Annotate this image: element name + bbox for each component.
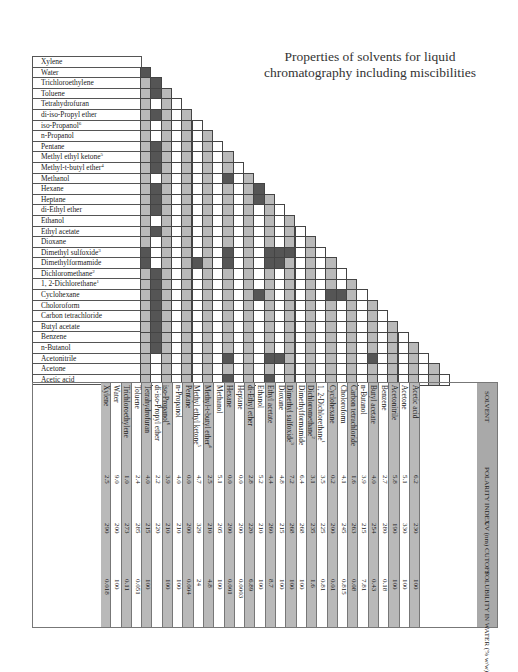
solvent-name: n-Propanol [173, 385, 182, 418]
row-label: n-Butanol [33, 343, 141, 354]
solvent-column: Ethyl acetate4.42608.7 [266, 383, 276, 627]
value-uv: 200 [111, 523, 120, 534]
value-polarity: 3.9 [359, 475, 368, 484]
value-polarity: 4.1 [338, 475, 347, 484]
value-solubility: 6.89 [245, 579, 254, 591]
solvent-column: Heptane0.02000.0003 [235, 383, 245, 627]
value-uv: 205 [214, 523, 223, 534]
value-solubility: 8.7 [266, 579, 275, 588]
title-line-2: chromatography including miscibilities [255, 65, 485, 81]
value-solubility: 0.004 [184, 579, 193, 595]
value-solubility: 100 [276, 579, 285, 590]
value-solubility: 100 [256, 579, 265, 590]
row-label: Dioxane [33, 237, 141, 248]
value-polarity: 2.8 [245, 475, 254, 484]
value-polarity: 2.2 [153, 475, 162, 484]
value-polarity: 4.4 [266, 475, 275, 484]
value-polarity: 5.1 [214, 475, 223, 484]
solvent-name: Toluene [132, 385, 141, 409]
value-uv: 268 [297, 523, 306, 534]
row-label: Trichloroethylene [33, 78, 141, 89]
row-label: Heptane [33, 195, 141, 206]
solvent-column: Toluene2.42850.051 [132, 383, 142, 627]
value-solubility: 0.11 [122, 579, 131, 591]
value-uv: 215 [276, 523, 285, 534]
row-label: iso-Propanol6 [33, 121, 141, 132]
value-polarity: 4.0 [142, 475, 151, 484]
solvent-name: Cyclohexane [328, 385, 337, 424]
value-uv: 254 [369, 523, 378, 534]
solvent-column: Methanol5.1205100 [214, 383, 224, 627]
value-solubility: 0.18 [379, 579, 388, 591]
value-polarity: 2.7 [379, 475, 388, 484]
title-line-1: Properties of solvents for liquid [255, 49, 485, 65]
row-label: Water [33, 68, 141, 79]
row-label: Methanol [33, 174, 141, 185]
row-label: Dimethylformamide [33, 258, 141, 269]
solvent-name: iso-Propanol6 [162, 385, 173, 425]
value-uv: 260 [266, 523, 275, 534]
value-solubility: 1.6 [307, 579, 316, 588]
value-polarity: 2.4 [132, 475, 141, 484]
row-label: Butyl acetate [33, 322, 141, 333]
row-label: Ethanol [33, 216, 141, 227]
solvent-column: Hexane0.02000.001 [225, 383, 235, 627]
value-solubility: 24 [194, 579, 203, 586]
solvent-column: Water9.0200100 [111, 383, 121, 627]
value-solubility: 0.0003 [235, 579, 244, 598]
value-polarity: 2.5 [204, 475, 213, 484]
value-uv: 263 [348, 523, 357, 534]
solvent-column: n-Propanol4.0210100 [173, 383, 183, 627]
solvent-name: Methanol [214, 385, 223, 413]
value-polarity: 0.0 [235, 475, 244, 484]
header-uv: UV (nm) CUTOFF [483, 521, 491, 575]
value-uv: 210 [163, 523, 172, 534]
solvent-name: n-Butanol [359, 385, 368, 415]
value-polarity: 1.0 [122, 475, 131, 484]
solvent-column: Benzene2.72800.18 [379, 383, 389, 627]
value-solubility: 100 [287, 579, 296, 590]
value-solubility: 0.08 [348, 579, 357, 591]
value-polarity: 6.2 [410, 475, 419, 484]
value-uv: 220 [245, 523, 254, 534]
row-label: Pentane [33, 142, 141, 153]
solvent-name: Acetone [400, 385, 409, 410]
value-uv: 290 [101, 523, 110, 534]
solvent-name: Water [111, 385, 120, 402]
value-uv: 230 [410, 523, 419, 534]
solvent-name: di-Ethyl ether [245, 385, 254, 426]
solvent-column: iso-Propanol63.9210100 [163, 383, 173, 627]
value-polarity: 1.6 [348, 475, 357, 484]
solvent-name: Hexane [225, 385, 234, 408]
solvent-name: Pentane [184, 385, 193, 408]
solvent-name: Dioxane [276, 385, 285, 410]
value-uv: 235 [307, 523, 316, 534]
row-label: Acetone [33, 364, 141, 375]
solvent-name: Ethyl acetate [266, 385, 275, 423]
row-label: Tetrahydrofuran [33, 99, 141, 110]
value-solubility: 0.051 [132, 579, 141, 595]
solvent-column: Xylene2.52900.018 [101, 383, 111, 627]
value-solubility: 0.018 [101, 579, 110, 595]
value-solubility: 100 [214, 579, 223, 590]
value-uv: 200 [184, 523, 193, 534]
row-label: Cyclohexane [33, 290, 141, 301]
solvent-column: Choloroform4.12450.815 [338, 383, 348, 627]
value-uv: 200 [225, 523, 234, 534]
row-label: Hexane [33, 184, 141, 195]
solvent-column: Cyclohexane0.22000.01 [328, 383, 338, 627]
value-uv: 215 [142, 523, 151, 534]
value-uv: 210 [204, 523, 213, 534]
solvent-column: Ethanol5.2210100 [256, 383, 266, 627]
value-solubility: 7.81 [359, 579, 368, 591]
solvent-column: Acetic acid6.2230100 [410, 383, 420, 627]
value-polarity: 0.0 [184, 475, 193, 484]
value-solubility: 100 [111, 579, 120, 590]
value-uv: 210 [173, 523, 182, 534]
value-polarity: 4.0 [369, 475, 378, 484]
row-label: Methyl ethyl ketone5 [33, 152, 141, 163]
row-label: di-iso-Propyl ether [33, 110, 141, 121]
value-polarity: 4.8 [276, 475, 285, 484]
value-solubility: 0.815 [338, 579, 347, 595]
value-uv: 190 [390, 523, 399, 534]
